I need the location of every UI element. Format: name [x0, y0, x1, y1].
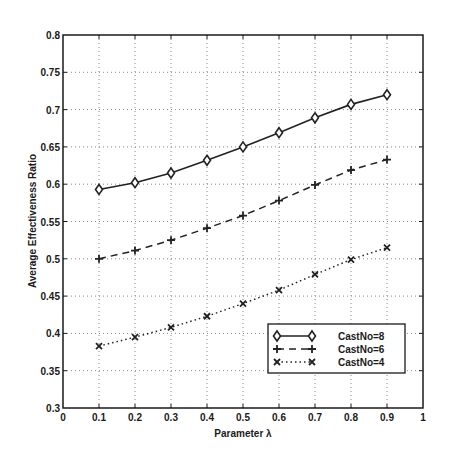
y-tick-label: 0.55 — [41, 217, 61, 228]
legend-box — [268, 324, 405, 373]
plus-marker — [383, 156, 391, 164]
legend: CastNo=8CastNo=6CastNo=4 — [268, 324, 405, 373]
y-tick-label: 0.6 — [46, 179, 60, 190]
y-tick-label: 0.35 — [41, 366, 61, 377]
plus-marker — [311, 181, 319, 189]
diamond-marker — [204, 155, 211, 165]
x-tick-label: 0.5 — [236, 412, 250, 423]
data-series — [95, 90, 391, 349]
plus-marker — [239, 212, 247, 220]
y-axis-label: Average Effectiveness Ratio — [27, 154, 38, 288]
diamond-marker — [276, 128, 283, 138]
diamond-marker — [348, 99, 355, 109]
y-tick-label: 0.7 — [46, 105, 60, 116]
x-tick-labels: 00.10.20.30.40.50.60.70.80.91 — [60, 412, 426, 423]
diamond-marker — [132, 178, 139, 188]
plus-marker — [275, 197, 283, 205]
plus-marker — [95, 255, 103, 263]
x-marker — [348, 257, 354, 263]
x-marker — [204, 313, 210, 319]
line-chart: 00.10.20.30.40.50.60.70.80.91 0.30.350.4… — [0, 0, 449, 451]
diamond-marker — [168, 168, 175, 178]
x-tick-label: 1 — [420, 412, 426, 423]
x-tick-label: 0.2 — [128, 412, 142, 423]
x-tick-label: 0.7 — [308, 412, 322, 423]
plus-marker — [131, 247, 139, 255]
x-marker — [312, 271, 318, 277]
x-marker — [276, 287, 282, 293]
x-tick-label: 0 — [60, 412, 66, 423]
diamond-marker — [384, 90, 391, 100]
series-castno-8 — [96, 90, 391, 195]
diamond-marker — [240, 142, 247, 152]
y-tick-label: 0.5 — [46, 254, 60, 265]
x-marker — [240, 301, 246, 307]
y-tick-labels: 0.30.350.40.450.50.550.60.650.70.750.8 — [41, 30, 61, 414]
y-tick-label: 0.65 — [41, 142, 61, 153]
x-tick-label: 0.9 — [380, 412, 394, 423]
plus-marker — [347, 166, 355, 174]
y-tick-label: 0.8 — [46, 30, 60, 41]
plus-marker — [167, 236, 175, 244]
x-axis-label: Parameter λ — [214, 428, 272, 439]
legend-label: CastNo=4 — [338, 357, 385, 368]
y-tick-label: 0.45 — [41, 291, 61, 302]
legend-label: CastNo=8 — [338, 331, 385, 342]
diamond-marker — [312, 113, 319, 123]
y-tick-label: 0.4 — [46, 328, 60, 339]
x-tick-label: 0.3 — [164, 412, 178, 423]
diamond-marker — [96, 184, 103, 194]
plus-marker — [203, 224, 211, 232]
y-tick-label: 0.75 — [41, 67, 61, 78]
legend-label: CastNo=6 — [338, 344, 385, 355]
x-tick-label: 0.6 — [272, 412, 286, 423]
x-tick-label: 0.8 — [344, 412, 358, 423]
x-tick-label: 0.4 — [200, 412, 214, 423]
y-tick-label: 0.3 — [46, 403, 60, 414]
chart-canvas: 00.10.20.30.40.50.60.70.80.91 0.30.350.4… — [0, 0, 449, 451]
x-tick-label: 0.1 — [92, 412, 106, 423]
